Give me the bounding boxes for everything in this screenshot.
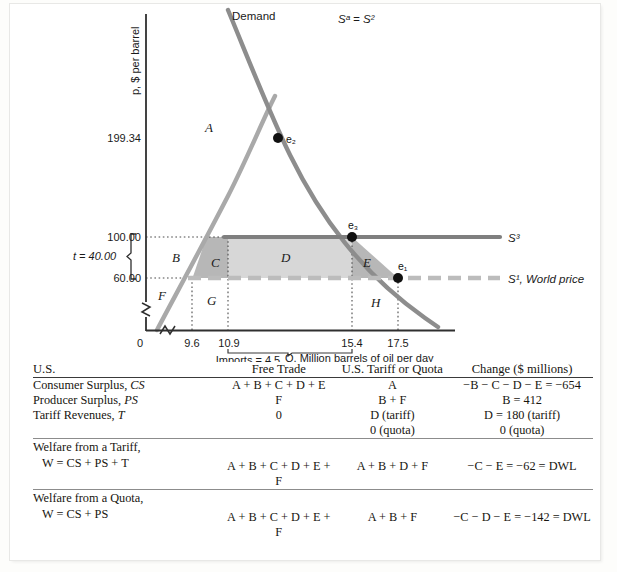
cell-wt-tariff-quota: A + B + D + F — [334, 439, 452, 490]
header-change: Change ($ millions) — [451, 362, 593, 378]
y-axis-title: p, $ per barrel — [129, 27, 141, 95]
figure-chart: t = 40.00 Imports = 4.5 199.34 100.00 60… — [0, 0, 617, 362]
supply-world-price-label: S¹, World price — [508, 273, 584, 285]
y-tick-199: 199.34 — [107, 132, 141, 144]
y-tick-60: 60.00 — [113, 272, 141, 284]
region-label-f: F — [157, 288, 167, 303]
tariff-brace-label: t = 40.00 — [73, 250, 117, 262]
demand-curve-label: Demand — [232, 10, 275, 22]
table-row: 0 (quota) 0 (quota) — [33, 423, 593, 439]
cell-ps-tariff-quota: B + F — [334, 393, 452, 408]
welfare-quota-line1: Welfare from a Quota, — [33, 491, 143, 505]
region-label-b: B — [172, 250, 180, 265]
region-label-c: C — [211, 255, 220, 270]
row-label-welfare-quota: Welfare from a Quota, W = CS + PS — [33, 490, 224, 541]
x-axis-title: Q, Million barrels of oil per day — [285, 352, 434, 362]
cell-wq-tariff-quota: A + B + F — [334, 490, 452, 541]
cell-quota-change: 0 (quota) — [451, 423, 593, 439]
welfare-table-container: U.S. Free Trade U.S. Tariff or Quota Cha… — [33, 362, 593, 540]
cell-cs-tariff-quota: A — [334, 378, 452, 394]
y-origin-label: 0 — [137, 337, 143, 349]
y-axis-break — [142, 303, 150, 316]
welfare-quota-line2: W = CS + PS — [33, 506, 108, 522]
x-tick-9-6: 9.6 — [184, 337, 199, 349]
header-us: U.S. — [33, 362, 224, 378]
cell-wt-change: −C − E = −62 = DWL — [451, 439, 593, 490]
table-row: Consumer Surplus, CS A + B + C + D + E A… — [33, 378, 593, 394]
cell-wt-free-trade: A + B + C + D + E + F — [224, 439, 334, 490]
region-label-g: G — [207, 293, 217, 308]
point-e3 — [347, 232, 357, 242]
x-axis-break — [160, 326, 175, 334]
cell-t-tariff-quota: D (tariff) — [334, 408, 452, 423]
row-label-quota-continuation — [33, 423, 224, 439]
cell-t-free-trade: 0 — [224, 408, 334, 423]
row-label-welfare-tariff: Welfare from a Tariff, W = CS + PS + T — [33, 439, 224, 490]
cell-cs-change: −B − C − D − E = −654 — [451, 378, 593, 394]
y-tick-100: 100.00 — [107, 231, 141, 243]
imports-label: Imports = 4.5 — [216, 354, 281, 362]
row-label-consumer-surplus: Consumer Surplus, CS — [33, 378, 224, 394]
region-label-e: E — [362, 255, 371, 270]
welfare-tariff-line1: Welfare from a Tariff, — [33, 440, 141, 454]
row-label-tariff-revenues: Tariff Revenues, T — [33, 408, 224, 423]
tariff-quota-diagram: t = 40.00 Imports = 4.5 199.34 100.00 60… — [0, 0, 617, 362]
cell-quota-tariff-quota: 0 (quota) — [334, 423, 452, 439]
label-e1: e₁ — [398, 260, 408, 272]
table-row: Welfare from a Tariff, W = CS + PS + T A… — [33, 439, 593, 490]
supply-tariff-label: S³ — [508, 232, 521, 244]
region-label-h: H — [370, 295, 381, 310]
region-label-a: A — [204, 120, 213, 135]
table-row: Producer Surplus, PS F B + F B = 412 — [33, 393, 593, 408]
cell-t-change: D = 180 (tariff) — [451, 408, 593, 423]
label-e2: e₂ — [286, 133, 296, 145]
point-e2 — [273, 133, 283, 143]
cell-ps-change: B = 412 — [451, 393, 593, 408]
header-free-trade: Free Trade — [224, 362, 334, 378]
table-header-row: U.S. Free Trade U.S. Tariff or Quota Cha… — [33, 362, 593, 378]
x-tick-15-4: 15.4 — [341, 337, 362, 349]
label-e3: e₃ — [348, 219, 358, 231]
welfare-table: U.S. Free Trade U.S. Tariff or Quota Cha… — [33, 362, 593, 540]
header-tariff-quota: U.S. Tariff or Quota — [334, 362, 452, 378]
cell-wq-change: −C − D − E = −142 = DWL — [451, 490, 593, 541]
table-row: Tariff Revenues, T 0 D (tariff) D = 180 … — [33, 408, 593, 423]
cell-quota-free-trade — [224, 423, 334, 439]
cell-wq-free-trade: A + B + C + D + E + F — [224, 490, 334, 541]
region-label-d: D — [280, 250, 291, 265]
x-tick-10-9: 10.9 — [218, 337, 239, 349]
x-tick-17-5: 17.5 — [387, 337, 408, 349]
table-row: Welfare from a Quota, W = CS + PS A + B … — [33, 490, 593, 541]
supply-domestic-label: Sᵃ = S² — [338, 13, 376, 25]
point-e1 — [393, 273, 403, 283]
row-label-producer-surplus: Producer Surplus, PS — [33, 393, 224, 408]
cell-ps-free-trade: F — [224, 393, 334, 408]
cell-cs-free-trade: A + B + C + D + E — [224, 378, 334, 394]
welfare-tariff-line2: W = CS + PS + T — [33, 455, 129, 471]
